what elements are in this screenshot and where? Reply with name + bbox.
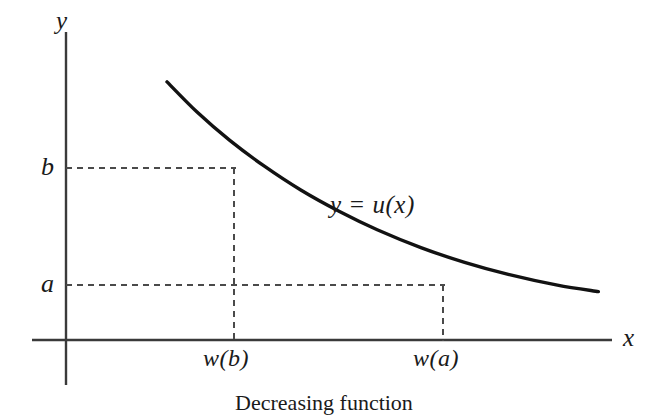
x-axis-label: x xyxy=(623,325,634,350)
y-axis-label: y xyxy=(56,8,67,33)
figure-caption: Decreasing function xyxy=(0,390,648,416)
y-tick-label-a: a xyxy=(41,271,54,297)
x-tick-label-w-of-a: w(a) xyxy=(413,346,459,370)
decreasing-curve xyxy=(167,82,598,292)
curve-equation-label: y = u(x) xyxy=(330,192,415,217)
y-tick-label-b: b xyxy=(41,154,54,180)
x-tick-label-w-of-b: w(b) xyxy=(203,346,249,370)
